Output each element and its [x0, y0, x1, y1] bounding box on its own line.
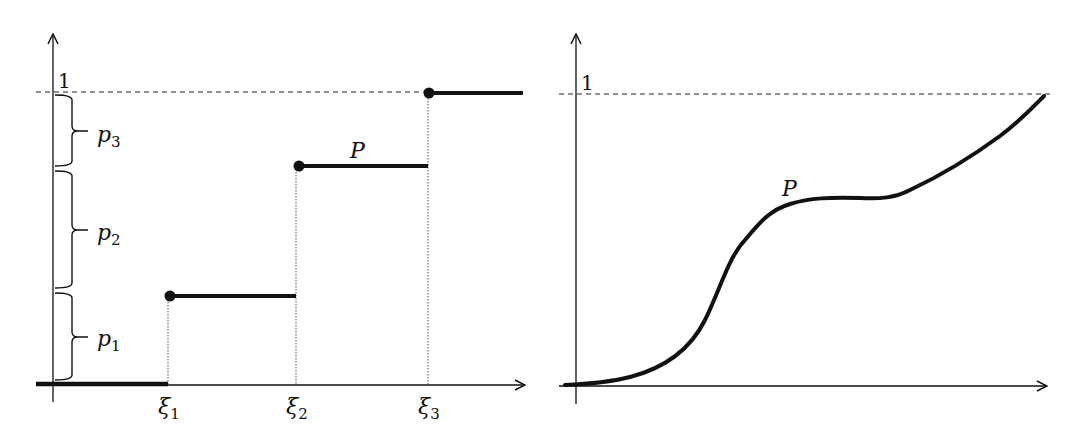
x-tick-xi2: ξ2	[286, 394, 308, 423]
jump-dot-xi2	[294, 161, 305, 172]
left-panel: 1 P p3 p2 p1	[36, 34, 525, 423]
brace-p3	[55, 95, 88, 166]
brace-label-p3: p3	[97, 122, 121, 151]
left-y-tick-1: 1	[58, 69, 71, 93]
left-curve-label-P: P	[349, 138, 366, 163]
brace-p1	[55, 293, 88, 380]
brace-label-p1: p1	[97, 326, 121, 355]
brace-p2	[55, 171, 88, 288]
x-tick-xi3: ξ3	[418, 394, 440, 423]
continuous-cdf-curve	[565, 96, 1044, 385]
right-panel: 1 P	[559, 34, 1052, 404]
right-curve-label-P: P	[781, 176, 798, 201]
jump-dot-xi3	[424, 88, 435, 99]
x-tick-xi1: ξ1	[158, 394, 180, 423]
brace-label-p2: p2	[97, 220, 121, 249]
jump-dot-xi1	[165, 291, 176, 302]
right-y-tick-1: 1	[581, 71, 594, 95]
figure: 1 P p3 p2 p1	[0, 0, 1074, 445]
